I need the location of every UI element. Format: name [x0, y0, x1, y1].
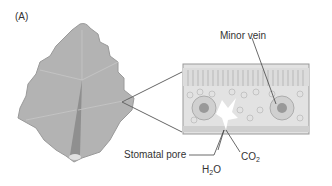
- co2-text: CO: [241, 151, 256, 162]
- h2o-o: O: [213, 164, 221, 175]
- leaf-cross-section: [183, 64, 309, 134]
- leaf-petiole: [69, 154, 81, 160]
- label-co2: CO2: [241, 152, 260, 163]
- label-minor-vein: Minor vein: [220, 31, 266, 41]
- label-h2o: H2O: [202, 165, 221, 176]
- label-stomatal-pore: Stomatal pore: [124, 150, 186, 160]
- panel-label: (A): [15, 12, 28, 22]
- co2-subscript: 2: [256, 156, 260, 163]
